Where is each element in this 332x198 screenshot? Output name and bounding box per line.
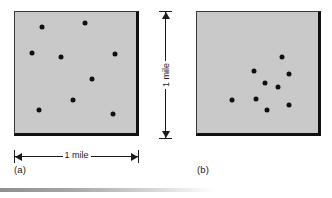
vertical-dimension-arrow: 1 mile [159, 11, 172, 139]
arrowhead-right-icon [131, 153, 138, 161]
arrowhead-up-icon [162, 12, 170, 19]
panel-label-a: (a) [14, 164, 26, 175]
vertical-dimension-label: 1 mile [160, 61, 171, 89]
horizontal-dimension-label: 1 mile [62, 149, 90, 162]
scatter-dot [276, 85, 281, 90]
scatter-dot [279, 54, 284, 59]
scatter-dot [251, 69, 256, 74]
panel-b: (b) [182, 0, 332, 198]
scatter-dot [83, 20, 88, 25]
scatter-dot [71, 98, 76, 103]
scatter-dot [286, 71, 291, 76]
scatter-plot-square-a [14, 11, 139, 136]
scatter-dot [230, 98, 235, 103]
arrowhead-down-icon [162, 131, 170, 138]
scatter-dot [39, 24, 44, 29]
scatter-dot [58, 54, 63, 59]
scatter-dot [111, 111, 116, 116]
scatter-dot [90, 76, 95, 81]
scatter-dot [29, 51, 34, 56]
scatter-dot [265, 108, 270, 113]
figure-root: 1 mile (a) 1 mile (b) [0, 0, 332, 198]
arrowhead-left-icon [15, 153, 22, 161]
horizontal-dimension-arrow: 1 mile [14, 150, 139, 163]
scatter-dot [37, 108, 42, 113]
scatter-dot [286, 103, 291, 108]
scatter-dot [262, 81, 267, 86]
scatter-dot [113, 52, 118, 57]
dimension-cap-right [138, 150, 139, 163]
bottom-gradient-rule [0, 188, 215, 192]
scatter-plot-square-b [196, 11, 321, 136]
panel-label-b: (b) [197, 164, 209, 175]
panel-a: 1 mile (a) [0, 0, 160, 198]
dimension-cap-bottom [159, 138, 172, 139]
scatter-dot [254, 97, 259, 102]
